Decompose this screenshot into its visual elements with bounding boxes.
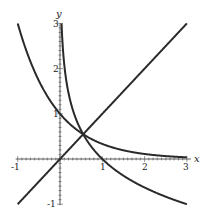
x-axis-label: x [194, 153, 200, 164]
x-tick-2: 2 [142, 162, 148, 172]
y-tick-neg1: -1 [47, 199, 56, 209]
y-axis-label: y [55, 8, 62, 19]
y-tick-1: 1 [53, 109, 59, 119]
x-tick-1: 1 [100, 162, 106, 172]
curve-logarithm [62, 24, 187, 205]
curve-exponential [18, 23, 187, 157]
x-tick-neg1: -1 [11, 162, 20, 172]
y-tick-3: 3 [53, 19, 59, 29]
y-tick-2: 2 [53, 64, 59, 74]
curves [18, 23, 187, 204]
line-y-equals-x [18, 23, 187, 204]
x-tick-3: 3 [183, 162, 189, 172]
chart: x y -1 1 2 3 -1 1 2 3 [0, 0, 209, 217]
